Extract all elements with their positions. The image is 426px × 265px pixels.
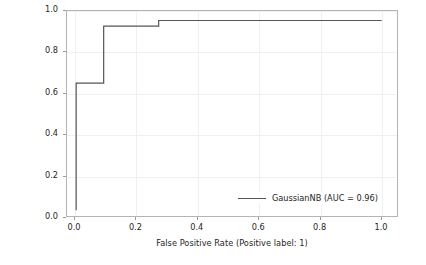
x-tick-label: 0.0 [54,222,94,232]
x-tick-mark [135,217,136,220]
legend-entry-label: GaussianNB (AUC = 0.96) [272,193,378,203]
x-tick-label: 0.4 [177,222,217,232]
y-tick-label: 0.2 [24,170,58,180]
x-tick-mark [258,217,259,220]
plot-area [66,10,398,217]
x-tick-label: 0.6 [238,222,278,232]
y-tick-label: 1.0 [24,4,58,14]
y-tick-mark [63,217,66,218]
x-tick-mark [74,217,75,220]
x-tick-mark [381,217,382,220]
x-axis-label: False Positive Rate (Positive label: 1) [66,238,398,248]
x-tick-mark [320,217,321,220]
y-tick-label: 0.8 [24,45,58,55]
plot-inner [67,11,397,216]
y-tick-label: 0.4 [24,128,58,138]
roc-curve-figure: True Positive Rate (Positive label: 1) 0… [0,0,426,265]
y-tick-label: 0.0 [24,211,58,221]
x-tick-mark [197,217,198,220]
legend-line-swatch [238,198,266,199]
roc-curve-line [67,11,397,216]
chart-legend: GaussianNB (AUC = 0.96) [236,192,380,204]
x-tick-label: 1.0 [361,222,401,232]
y-tick-label: 0.6 [24,87,58,97]
x-tick-label: 0.2 [115,222,155,232]
x-tick-label: 0.8 [300,222,340,232]
